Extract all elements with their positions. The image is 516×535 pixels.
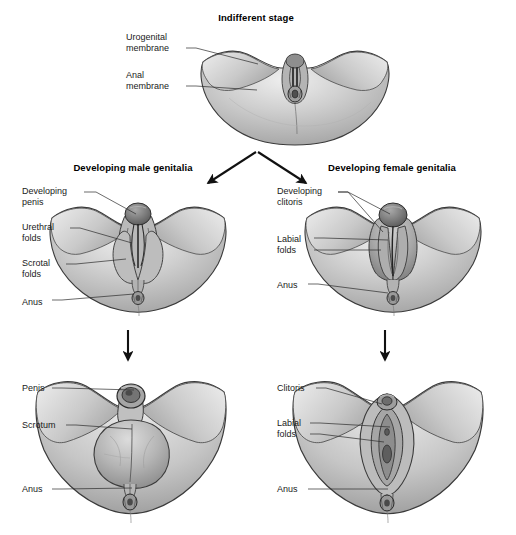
label-labial-folds-mature-line1: Labial xyxy=(277,418,301,430)
illustration-indifferent-stage xyxy=(185,28,405,148)
label-urethral-folds-line2: folds xyxy=(22,233,41,245)
label-anal-membrane-line1: Anal xyxy=(126,70,144,82)
label-scrotal-folds-line1: Scrotal xyxy=(22,258,50,270)
illustration-mature-female xyxy=(283,370,493,525)
label-labial-folds-mature-line2: folds xyxy=(277,429,296,441)
label-developing-clitoris-line2: clitoris xyxy=(277,197,303,209)
label-anus-mature-male: Anus xyxy=(22,484,43,496)
branch-arrow-to-female xyxy=(258,152,306,183)
label-urogenital-membrane-line2: membrane xyxy=(126,43,169,55)
label-scrotal-folds-line2: folds xyxy=(22,269,41,281)
label-labial-folds-developing-line1: Labial xyxy=(277,234,301,246)
panel-title-indifferent: Indifferent stage xyxy=(196,12,316,23)
label-clitoris: Clitoris xyxy=(277,383,305,395)
label-anus-developing-female: Anus xyxy=(277,280,298,292)
branch-arrow-to-male xyxy=(208,152,256,183)
label-anus-developing-male: Anus xyxy=(22,297,43,309)
label-developing-penis-line1: Developing xyxy=(22,186,67,198)
illustration-mature-male xyxy=(26,370,236,525)
figure-canvas: Indifferent stage Urogenital membrane An… xyxy=(0,0,516,535)
label-urogenital-membrane-line1: Urogenital xyxy=(126,32,167,44)
panel-title-developing-female: Developing female genitalia xyxy=(312,162,472,173)
illustration-developing-female xyxy=(293,188,493,318)
label-anus-mature-female: Anus xyxy=(277,484,298,496)
label-penis: Penis xyxy=(22,383,45,395)
label-labial-folds-developing-line2: folds xyxy=(277,245,296,257)
label-developing-penis-line2: penis xyxy=(22,197,44,209)
panel-title-developing-male: Developing male genitalia xyxy=(58,162,208,173)
label-scrotum: Scrotum xyxy=(22,420,56,432)
label-anal-membrane-line2: membrane xyxy=(126,81,169,93)
illustration-developing-male xyxy=(38,188,238,318)
label-urethral-folds-line1: Urethral xyxy=(22,222,54,234)
label-developing-clitoris-line1: Developing xyxy=(277,186,322,198)
